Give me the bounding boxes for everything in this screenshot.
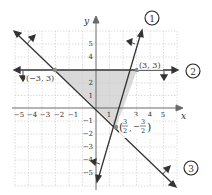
x-axis-label: x: [181, 111, 186, 121]
svg-text:−4: −4: [27, 111, 38, 119]
svg-text:5: 5: [161, 111, 165, 119]
svg-text:2: 2: [123, 127, 127, 135]
svg-text:): ): [147, 121, 151, 134]
line-label-3: 3: [184, 161, 198, 175]
svg-text:2: 2: [190, 67, 196, 77]
svg-text:3: 3: [188, 164, 194, 174]
vertex-label-3-3: (3, 3): [139, 61, 161, 70]
svg-text:4: 4: [89, 53, 94, 61]
svg-text:5: 5: [89, 40, 93, 48]
svg-text:3: 3: [141, 118, 145, 126]
svg-text:1: 1: [107, 111, 111, 119]
svg-text:−: −: [133, 122, 140, 131]
svg-text:−2: −2: [54, 111, 64, 119]
svg-text:−3: −3: [40, 111, 50, 119]
svg-text:1: 1: [149, 14, 155, 24]
svg-text:−2: −2: [83, 130, 93, 138]
svg-text:−5: −5: [83, 169, 93, 177]
y-axis-label: y: [83, 16, 90, 26]
svg-text:−3: −3: [83, 143, 93, 151]
line-label-1: 1: [145, 11, 159, 25]
vertex-1.5-neg1.5: [114, 125, 118, 129]
svg-text:−5: −5: [14, 111, 24, 119]
vertex-label-neg3-3: (−3, 3): [26, 74, 54, 83]
line-label-2: 2: [186, 64, 200, 78]
vertex-neg3-3: [53, 68, 57, 72]
svg-text:3: 3: [123, 118, 127, 126]
inequality-graph: x y −5 −4 −3 −2 −1 1 3 4 5 5 4 2 1 −1 −2…: [0, 0, 212, 195]
svg-text:2: 2: [141, 127, 145, 135]
svg-text:−1: −1: [83, 117, 93, 125]
svg-text:,: ,: [129, 124, 132, 133]
svg-text:2: 2: [89, 79, 93, 87]
svg-text:−1: −1: [68, 111, 78, 119]
svg-text:1: 1: [89, 92, 93, 100]
vertex-label-1.5-neg1.5: ( 3 2 , − 3 2 ): [119, 116, 153, 138]
